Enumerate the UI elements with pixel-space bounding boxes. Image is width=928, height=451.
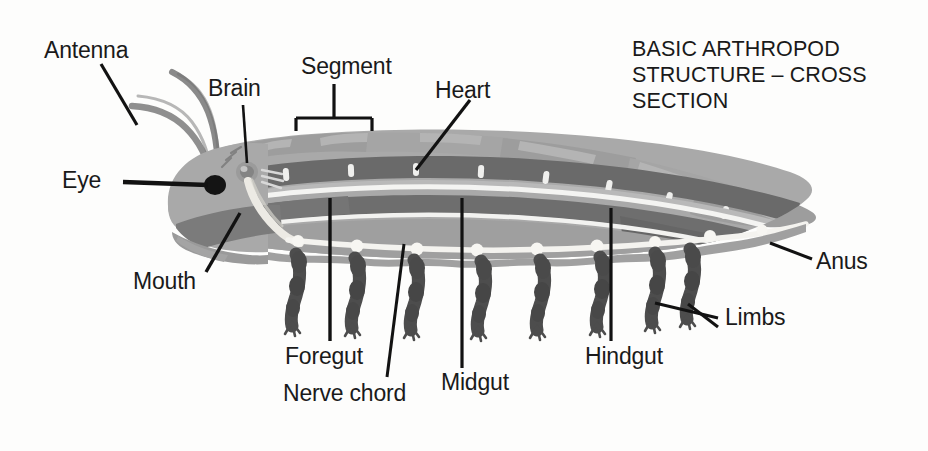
label-eye: Eye	[62, 168, 101, 193]
figure-title: BASIC ARTHROPOD STRUCTURE – CROSS SECTIO…	[632, 36, 867, 114]
limb	[530, 257, 551, 340]
limb	[645, 250, 666, 333]
limb	[285, 251, 307, 336]
figure-title-line-2: STRUCTURE – CROSS	[632, 63, 867, 87]
label-foregut: Foregut	[285, 344, 363, 369]
segment-bracket	[296, 84, 372, 131]
label-anus: Anus	[816, 249, 868, 274]
arthropod-body	[168, 129, 816, 341]
figure-title-line-1: BASIC ARTHROPOD	[632, 37, 840, 61]
leader-antenna	[101, 64, 137, 125]
limb	[471, 258, 492, 341]
label-antenna: Antenna	[44, 38, 128, 63]
label-midgut: Midgut	[441, 370, 509, 395]
label-segment: Segment	[301, 54, 392, 79]
leader-eye	[123, 182, 208, 185]
label-brain: Brain	[208, 76, 261, 101]
label-nerve-chord: Nerve chord	[283, 381, 406, 406]
leader-anus	[770, 243, 812, 259]
limb	[680, 246, 701, 329]
limb	[590, 254, 611, 337]
label-heart: Heart	[435, 78, 490, 103]
label-limbs: Limbs	[725, 305, 785, 330]
label-hindgut: Hindgut	[585, 344, 663, 369]
figure-title-line-3: SECTION	[632, 89, 728, 113]
diagram-page: BASIC ARTHROPOD STRUCTURE – CROSS SECTIO…	[0, 0, 928, 451]
limb	[345, 255, 366, 338]
label-mouth: Mouth	[133, 269, 196, 294]
limb	[404, 257, 425, 340]
